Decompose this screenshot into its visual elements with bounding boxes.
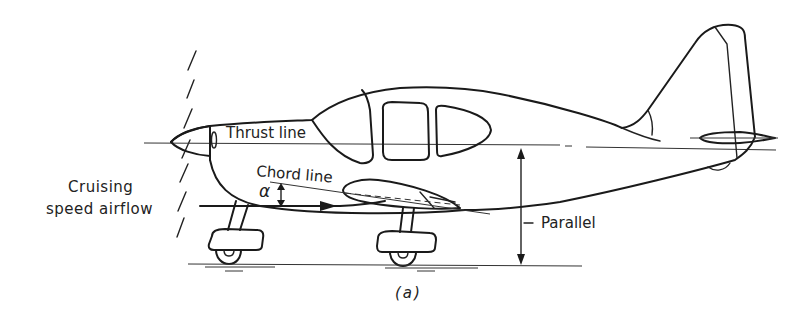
aircraft-drawing — [0, 0, 808, 325]
ground-line — [188, 264, 582, 271]
propeller-hub — [212, 132, 217, 148]
main-landing-gear — [377, 208, 436, 266]
airflow-hatch-marks — [177, 51, 196, 237]
fin-fillet — [648, 110, 652, 135]
thrust-line-label: Thrust line — [226, 126, 306, 141]
cabin-window-rear — [436, 106, 491, 157]
propeller-spinner — [171, 126, 210, 156]
fin-root-line — [622, 128, 660, 141]
figure-caption: (a) — [395, 286, 422, 301]
chord-line — [270, 182, 490, 214]
airflow-label-line1: Cruising — [68, 180, 133, 195]
parallel-label: Parallel — [541, 216, 596, 231]
cabin-window-front — [383, 102, 429, 160]
airflow-label-line2: speed airflow — [46, 202, 153, 217]
alpha-label: α — [259, 183, 270, 200]
nose-landing-gear — [209, 201, 264, 264]
aircraft-diagram: Thrust line Chord line α Cruising speed … — [0, 0, 808, 325]
alpha-angle-arrow — [277, 183, 285, 207]
thrust-line — [144, 143, 776, 150]
